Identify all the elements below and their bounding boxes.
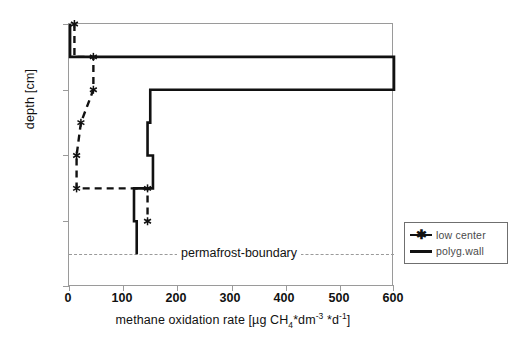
asterisk-icon: ✱ [416,228,427,241]
series-layer [69,24,394,287]
x-axis-title-post: ] [347,313,351,327]
legend-key-dashed-asterisk: ✱ [410,229,432,241]
x-tick-label-100: 100 [100,292,144,305]
x-axis-title-mid: *dm [293,313,316,327]
legend-label-polyg-wall: polyg.wall [436,245,484,257]
x-tick-label-600: 600 [371,292,415,305]
legend: ✱ low center polyg.wall [404,222,508,264]
legend-item-polyg-wall[interactable]: polyg.wall [410,243,502,259]
legend-key-solid [410,245,432,257]
x-axis-title-sup2: -1 [339,311,347,321]
x-tick-label-500: 500 [317,292,361,305]
x-tick-label-200: 200 [154,292,198,305]
y-axis-title: depth [cm] [23,39,37,159]
plot-area: permafrost-boundary [68,23,393,286]
x-axis-title-mid2: *d [323,313,339,327]
solid-line-swatch [410,250,432,253]
x-axis-title: methane oxidation rate [µg CH4*dm-3 *d-1… [58,311,408,330]
x-tick-label-0: 0 [46,292,90,305]
series-markers [71,20,151,225]
x-tick-label-400: 400 [262,292,306,305]
x-axis-title-pre: methane oxidation rate [µg CH [116,313,289,327]
series-low-center [74,24,147,221]
chart-figure: depth [cm] 0 10 20 30 40 0 100 200 300 4… [0,0,519,341]
legend-item-low-center[interactable]: ✱ low center [410,227,502,243]
x-tick-label-300: 300 [208,292,252,305]
series-polyg-wall [70,24,394,254]
legend-label-low-center: low center [436,229,486,241]
